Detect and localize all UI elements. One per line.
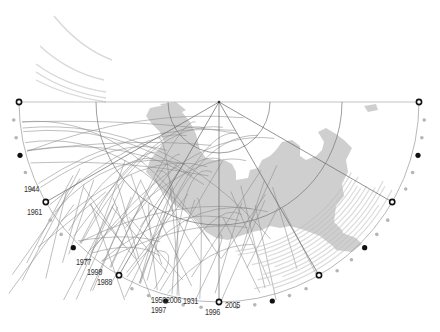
year-label: 1988 [97, 277, 112, 287]
center-point [218, 101, 221, 104]
tick-dot [304, 287, 308, 291]
year-label: 1997 [151, 305, 166, 315]
year-label: 1977 [76, 257, 91, 267]
year-label: 1944 [24, 184, 39, 194]
open-marker [390, 199, 395, 204]
tick-dot [12, 118, 16, 122]
open-marker [116, 273, 121, 278]
year-label: 1931 [183, 296, 198, 306]
tick-dot [375, 233, 379, 237]
open-marker [216, 299, 221, 304]
tick-dot [404, 187, 408, 191]
storm-track [9, 205, 74, 294]
open-marker [43, 199, 48, 204]
filled-marker [270, 298, 275, 303]
tick-dot [386, 218, 390, 222]
filled-marker [415, 153, 420, 158]
open-marker [316, 273, 321, 278]
year-label: 1998 [87, 267, 102, 277]
year-label: 1996 [205, 307, 220, 317]
tick-dot [350, 258, 354, 262]
tick-dot [288, 294, 292, 298]
polar-track-diagram [0, 0, 440, 332]
year-label: 2005 [225, 300, 240, 310]
filled-marker [71, 245, 76, 250]
tick-dot [14, 136, 18, 140]
tick-dot [59, 233, 63, 237]
year-label: 2006 [166, 295, 181, 305]
outer-faint-arcs [36, 16, 112, 102]
filled-marker [17, 153, 22, 158]
tick-dot [253, 303, 257, 307]
tick-dot [130, 287, 134, 291]
tick-dot [199, 305, 203, 309]
year-label: 1961 [27, 207, 42, 217]
filled-marker [362, 245, 367, 250]
tick-dot [147, 294, 151, 298]
tick-dot [24, 171, 28, 175]
tick-dot [48, 218, 52, 222]
year-label: 1950 [151, 295, 166, 305]
tick-dot [420, 136, 424, 140]
tick-dot [335, 269, 339, 273]
open-marker [416, 99, 421, 104]
tick-dot [411, 171, 415, 175]
tick-dot [422, 118, 426, 122]
open-marker [16, 99, 21, 104]
